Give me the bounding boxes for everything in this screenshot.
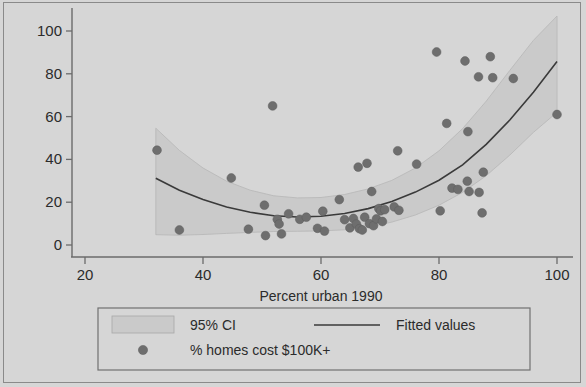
scatter-point bbox=[378, 217, 387, 226]
scatter-point bbox=[320, 227, 329, 236]
scatter-point bbox=[244, 225, 253, 234]
scatter-point bbox=[464, 127, 473, 136]
scatter-chart: 02040608010020406080100Percent urban 199… bbox=[0, 0, 586, 387]
scatter-point bbox=[465, 187, 474, 196]
scatter-point bbox=[268, 102, 277, 111]
legend-ci-label: 95% CI bbox=[190, 317, 236, 333]
y-tick-label-80: 80 bbox=[45, 65, 62, 82]
y-tick-label-40: 40 bbox=[45, 150, 62, 167]
scatter-point bbox=[454, 185, 463, 194]
scatter-point bbox=[260, 201, 269, 210]
scatter-point bbox=[363, 159, 372, 168]
scatter-point bbox=[358, 226, 367, 235]
scatter-point bbox=[436, 206, 445, 215]
scatter-point bbox=[412, 160, 421, 169]
scatter-point bbox=[432, 48, 441, 57]
scatter-point bbox=[461, 57, 470, 66]
scatter-point bbox=[475, 188, 484, 197]
x-tick-label-60: 60 bbox=[313, 266, 330, 283]
x-tick-label-100: 100 bbox=[544, 266, 569, 283]
scatter-point bbox=[488, 73, 497, 82]
scatter-point bbox=[380, 205, 389, 214]
scatter-point bbox=[393, 146, 402, 155]
y-tick-label-60: 60 bbox=[45, 108, 62, 125]
y-tick-label-0: 0 bbox=[54, 236, 62, 253]
scatter-point bbox=[277, 230, 286, 239]
scatter-point bbox=[486, 52, 495, 61]
x-tick-label-20: 20 bbox=[77, 266, 94, 283]
y-tick-label-100: 100 bbox=[37, 22, 62, 39]
scatter-point bbox=[335, 195, 344, 204]
scatter-point bbox=[509, 74, 518, 83]
scatter-point bbox=[227, 174, 236, 183]
scatter-point bbox=[261, 231, 270, 240]
scatter-point bbox=[553, 110, 562, 119]
x-axis-title: Percent urban 1990 bbox=[260, 288, 383, 304]
scatter-point bbox=[302, 213, 311, 222]
legend-scatter-label: % homes cost $100K+ bbox=[190, 342, 330, 358]
scatter-point bbox=[354, 163, 363, 172]
scatter-point bbox=[284, 209, 293, 218]
scatter-point bbox=[463, 177, 472, 186]
y-tick-label-20: 20 bbox=[45, 193, 62, 210]
scatter-point bbox=[395, 206, 404, 215]
scatter-point bbox=[479, 168, 488, 177]
x-tick-label-80: 80 bbox=[431, 266, 448, 283]
x-tick-label-40: 40 bbox=[195, 266, 212, 283]
scatter-point bbox=[367, 187, 376, 196]
legend-scatter-swatch bbox=[138, 345, 147, 354]
scatter-point bbox=[175, 226, 184, 235]
scatter-point bbox=[340, 215, 349, 224]
scatter-point bbox=[275, 220, 284, 229]
scatter-point bbox=[318, 207, 327, 216]
scatter-point bbox=[153, 146, 162, 155]
scatter-point bbox=[478, 209, 487, 218]
ci-band bbox=[156, 16, 557, 235]
chart-root: 02040608010020406080100Percent urban 199… bbox=[0, 0, 586, 387]
scatter-point bbox=[442, 119, 451, 128]
legend-fitted-label: Fitted values bbox=[396, 317, 475, 333]
legend-ci-swatch bbox=[112, 316, 174, 333]
scatter-point bbox=[474, 72, 483, 81]
